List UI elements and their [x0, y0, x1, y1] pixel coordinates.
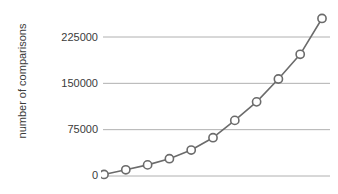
data-line — [104, 18, 322, 174]
data-point-5 — [187, 146, 195, 154]
gridlines — [103, 37, 330, 176]
y-tick-label-0: 0 — [40, 169, 98, 181]
data-markers — [101, 14, 326, 178]
data-point-7 — [231, 116, 239, 124]
data-point-6 — [209, 134, 217, 142]
data-point-2 — [122, 166, 130, 174]
data-point-11 — [318, 14, 326, 22]
y-tick-label-75000: 75000 — [40, 123, 98, 135]
y-tick-label-225000: 225000 — [40, 31, 98, 43]
data-point-4 — [165, 155, 173, 163]
y-axis-tick-labels: 225000 150000 75000 0 — [40, 0, 98, 194]
data-point-3 — [144, 161, 152, 169]
y-axis-title: number of comparisons — [16, 1, 32, 161]
plot-area — [101, 0, 333, 194]
data-point-10 — [296, 50, 304, 58]
data-point-9 — [274, 75, 282, 83]
y-tick-label-150000: 150000 — [40, 77, 98, 89]
data-point-1 — [101, 170, 108, 178]
plot-svg — [101, 0, 333, 194]
data-point-8 — [253, 98, 261, 106]
line-chart: number of comparisons 225000 150000 7500… — [0, 0, 338, 194]
